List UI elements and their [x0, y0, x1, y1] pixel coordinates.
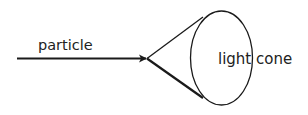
cone-lower-edge: [147, 59, 203, 99]
cone-upper-edge: [147, 17, 203, 59]
particle-label: particle: [38, 37, 93, 53]
light-label: light: [218, 50, 251, 68]
light-cone-diagram: particle light cone: [0, 0, 308, 115]
cone-label: cone: [256, 50, 292, 68]
